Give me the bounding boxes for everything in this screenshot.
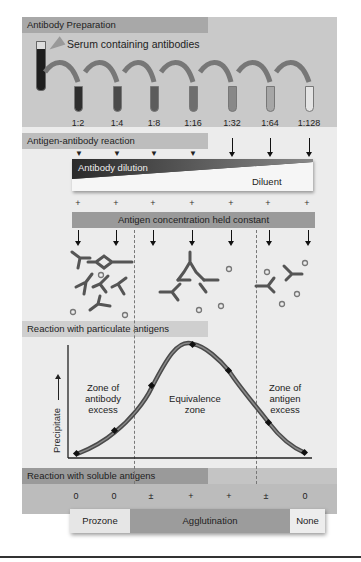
score-1-8: ± [145,491,157,501]
score-1-128: 0 [299,491,311,501]
antigen-constant-bar: Antigen concentration held constant [72,212,315,228]
tube-1-4 [113,86,122,112]
bottom-rule [0,556,361,558]
triangle-marker-icon: ▼ [148,149,160,158]
tube-1-64 [266,86,275,112]
arrow-down-icon [309,138,310,153]
score-1-32: + [223,491,235,501]
zone-antibody-excess-label: Zone ofantibodyexcess [78,382,128,415]
arrow-down-icon [232,138,233,153]
tube-1-8 [150,86,159,112]
dilution-label: 1:32 [217,118,247,128]
dilution-wedge: Antibody dilution Diluent [72,159,313,191]
triangle-marker-icon: ▼ [187,149,199,158]
plus-sign: + [187,198,197,208]
transfer-arrows [0,0,361,100]
soluble-band [208,468,337,484]
y-axis-arrow-icon [58,378,59,400]
dilution-label: 1:128 [294,118,324,128]
triangle-marker-icon: ▼ [111,149,123,158]
none-box: None [290,509,325,533]
dilution-label: 1:16 [178,118,208,128]
plus-sign: + [148,198,158,208]
plus-sign: + [263,198,273,208]
section-antigen-antibody-reaction: Antigen-antibody reaction [22,133,208,149]
score-1-16: + [185,491,197,501]
tube-1-128 [305,86,314,112]
agglutination-box: Agglutination [130,509,290,533]
score-1-64: ± [260,491,272,501]
tube-1-2 [74,86,83,112]
arrow-down-icon [270,138,271,153]
dilution-label: 1:4 [102,118,132,128]
triangle-marker-icon: ▼ [73,149,85,158]
antibody-antigen-complexes [0,240,361,320]
plus-sign: + [226,198,236,208]
prozone-box: Prozone [70,509,130,533]
dilution-label: 1:8 [139,118,169,128]
dilution-label: 1:2 [63,118,93,128]
diluent-label: Diluent [252,176,282,187]
score-1-4: 0 [108,491,120,501]
score-1-2: 0 [70,491,82,501]
y-axis-label: Precipitate [51,403,62,459]
plus-sign: + [302,198,312,208]
zone-equivalence-label: Equivalencezone [165,393,225,415]
section-soluble-antigens: Reaction with soluble antigens [22,468,208,484]
antibody-dilution-label: Antibody dilution [78,162,148,173]
tube-1-16 [189,86,198,112]
zone-antigen-excess-label: Zone ofantigenexcess [260,382,310,415]
section-particulate-antigens: Reaction with particulate antigens [22,321,208,337]
tube-1-32 [228,86,237,112]
dilution-label: 1:64 [255,118,285,128]
plus-sign: + [73,198,83,208]
plus-sign: + [111,198,121,208]
